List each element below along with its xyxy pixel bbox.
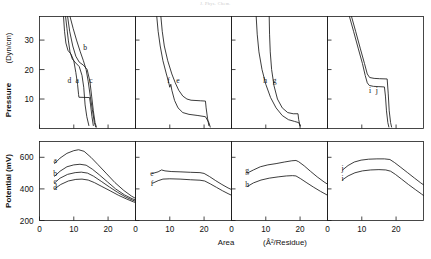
curve-label-top-e: e [176,76,180,85]
curve-label-bottom-j: j [341,164,344,173]
ytick-label-top-30: 30 [24,36,34,45]
xtick-label-p3-20: 20 [296,225,306,234]
curve-top-h [256,17,300,126]
ytick-label-top-20: 20 [24,66,34,75]
curve-top-g [269,17,300,127]
curve-bottom-i [343,170,424,196]
curve-label-top-f: f [167,76,170,85]
xtick-label-p4-0: 0 [325,225,330,234]
curve-label-top-h: h [263,76,267,85]
xtick-label-p1-0: 0 [37,225,42,234]
curve-label-top-i: i [369,86,371,95]
x-axis-units-area: (Å²/Residue) [263,238,307,247]
y-axis-label-potential: Potential (mV) [4,154,13,208]
curve-label-bottom-i: i [342,174,344,183]
panel-border-top-4 [328,17,424,129]
curve-label-top-g: g [273,76,277,85]
curve-label-bottom-h: h [245,180,249,189]
curve-bottom-j [343,159,424,185]
xtick-label-p1-10: 10 [69,225,79,234]
xtick-label-p3-0: 0 [229,225,234,234]
curve-bottom-f [153,179,232,195]
xtick-label-p2-10: 10 [165,225,175,234]
curve-top-a [66,17,89,126]
xtick-label-p4-10: 10 [357,225,367,234]
xtick-label-p1-20: 20 [104,225,114,234]
curve-top-j [352,17,392,128]
x-axis-label-area: Area [218,238,235,247]
curve-label-bottom-e: e [150,169,154,178]
curve-top-i [349,17,388,128]
curve-top-d [64,17,94,126]
curve-label-top-d: d [67,76,71,85]
xtick-label-p2-0: 0 [133,225,138,234]
page-header-faint: J. Phys. Chem. [0,1,431,6]
curve-label-top-b: b [83,43,87,52]
ytick-label-bottom-400: 400 [20,185,34,194]
curve-bottom-c [55,172,136,201]
curve-bottom-a [55,150,136,199]
curve-top-f [157,17,210,128]
curve-label-top-j: j [375,86,378,95]
multi-panel-plot: 10203020040060000001010101020202020abcde… [0,0,431,259]
xtick-label-p2-20: 20 [200,225,210,234]
ytick-label-bottom-600: 600 [20,153,34,162]
panel-border-top-2 [136,17,232,129]
ytick-label-bottom-200: 200 [20,217,34,226]
xtick-label-p4-20: 20 [392,225,402,234]
ytick-label-top-10: 10 [24,95,34,104]
y-axis-units-pressure: (Dyn/cm) [4,32,13,63]
y-axis-label-pressure: Pressure [4,82,13,117]
curve-label-bottom-g: g [245,166,249,175]
curve-top-b [70,17,96,128]
curve-top-e [161,17,209,126]
curve-label-top-c: c [89,76,93,85]
figure-container: J. Phys. Chem. 1020302004006000000101010… [0,0,431,259]
curve-bottom-d [55,179,136,202]
curve-bottom-h [247,176,327,196]
xtick-label-p3-10: 10 [261,225,271,234]
curve-label-bottom-d: d [53,183,57,192]
